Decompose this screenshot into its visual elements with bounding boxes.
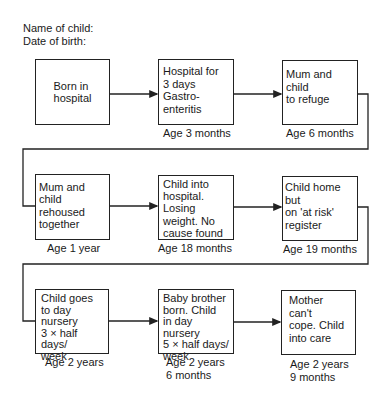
box-text: Born in hospital (54, 80, 92, 105)
box-baby-brother-born: Baby brother born. Child in day nursery … (158, 289, 234, 354)
age-label: Age 18 months (158, 242, 232, 255)
box-born-in-hospital: Born in hospital (35, 59, 110, 125)
age-label: Age 2 years 9 months (290, 358, 349, 383)
age-label: Age 1 year (47, 242, 100, 255)
box-text: Child home but on 'at risk' register (285, 181, 355, 231)
age-label: Age 2 years (45, 356, 104, 369)
box-hospital-gastroenteritis: Hospital for 3 days Gastro- enteritis (158, 59, 234, 125)
age-label: Age 19 months (283, 243, 357, 256)
box-text: Hospital for 3 days Gastro- enteritis (163, 65, 219, 115)
box-day-nursery: Child goes to day nursery 3 × half days/… (35, 289, 109, 354)
age-label: Age 3 months (163, 127, 231, 140)
box-text: Child into hospital. Losing weight. No c… (163, 178, 223, 239)
box-text: Mum and child rehoused together (39, 181, 107, 231)
box-text: Baby brother born. Child in day nursery … (163, 292, 229, 362)
box-mum-child-refuge: Mum and child to refuge (282, 60, 358, 125)
box-at-risk-register: Child home but on 'at risk' register (282, 176, 358, 241)
box-text: Mother can't cope. Child into care (289, 294, 349, 344)
box-rehoused-together: Mum and child rehoused together (35, 174, 110, 240)
box-into-care: Mother can't cope. Child into care (281, 290, 356, 355)
age-label: Age 2 years 6 months (166, 356, 225, 381)
box-text: Child goes to day nursery 3 × half days/… (41, 292, 93, 362)
age-label: Age 6 months (286, 127, 354, 140)
box-child-into-hospital: Child into hospital. Losing weight. No c… (158, 175, 234, 240)
box-text: Mum and child to refuge (286, 68, 354, 106)
